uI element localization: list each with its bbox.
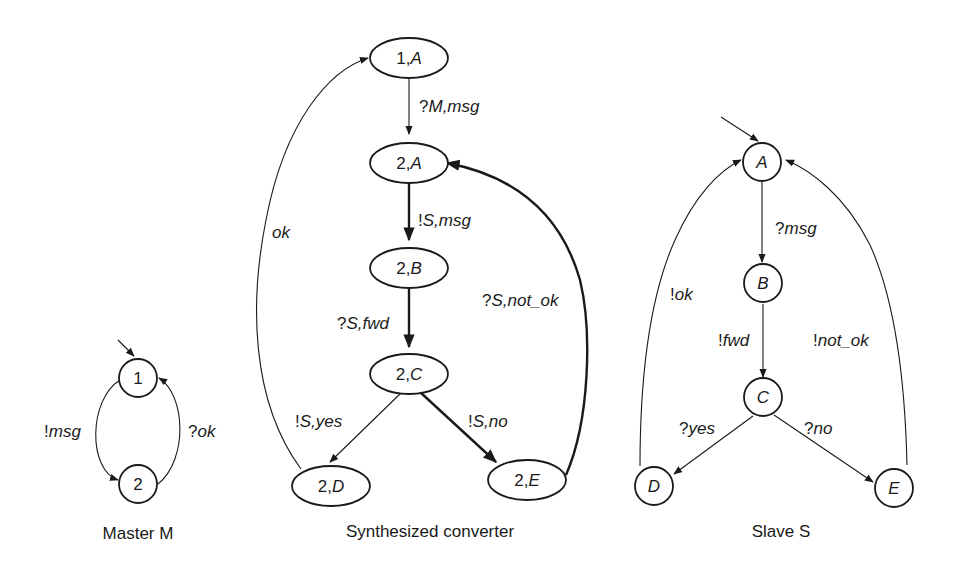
conv-label-S-no: !S,no	[468, 412, 508, 431]
conv-state-1A: 1,A	[370, 38, 448, 78]
slave-state-A: A	[743, 143, 781, 181]
master-state-1: 1	[119, 359, 157, 397]
slave-state-C: C	[744, 378, 782, 416]
conv-state-2E: 2,E	[488, 460, 566, 500]
slave-state-D: D	[635, 467, 673, 505]
slave-label-not-ok: !not_ok	[813, 331, 870, 350]
master-diagram: 1 2 !msg ?ok Master M	[44, 340, 217, 543]
conv-state-2D: 2,D	[292, 466, 370, 506]
slave-label-yes: ?yes	[679, 419, 715, 438]
svg-text:2,D: 2,D	[318, 477, 344, 496]
slave-initial-arrow	[721, 117, 758, 141]
svg-text:E: E	[888, 479, 900, 498]
svg-text:B: B	[757, 274, 768, 293]
svg-text:2,B: 2,B	[396, 259, 422, 278]
conv-label-S-not-ok: ?S,not_ok	[482, 291, 560, 310]
master-edge-2-1	[158, 378, 180, 484]
master-edge-1-2	[96, 380, 120, 480]
svg-text:2,C: 2,C	[396, 365, 423, 384]
master-label-msg: !msg	[44, 422, 81, 441]
conv-label-S-msg: !S,msg	[418, 211, 471, 230]
slave-diagram: A B C D E ?msg !fwd ?yes ?no !ok !not_ok…	[635, 117, 913, 541]
slave-label-fwd: !fwd	[718, 331, 750, 350]
conv-label-S-fwd: ?S,fwd	[337, 314, 390, 333]
svg-text:C: C	[757, 388, 770, 407]
svg-text:A: A	[755, 153, 767, 172]
conv-state-2A: 2,A	[370, 143, 448, 183]
svg-text:2,E: 2,E	[514, 471, 540, 490]
slave-label-ok: !ok	[670, 285, 694, 304]
master-initial-arrow	[118, 340, 134, 356]
svg-text:2,A: 2,A	[396, 154, 422, 173]
conv-label-ok: ok	[272, 223, 291, 242]
svg-text:1,A: 1,A	[396, 49, 422, 68]
converter-caption: Synthesized converter	[346, 522, 515, 541]
svg-text:1: 1	[133, 369, 142, 388]
slave-label-msg: ?msg	[775, 219, 817, 238]
converter-diagram: 1,A 2,A 2,B 2,C 2,D 2,E ?M,msg !S,msg ?S…	[257, 38, 588, 541]
conv-label-S-yes: !S,yes	[295, 412, 343, 431]
conv-state-2C: 2,C	[370, 354, 448, 394]
slave-caption: Slave S	[752, 522, 811, 541]
master-caption: Master M	[103, 524, 174, 543]
conv-state-2B: 2,B	[370, 248, 448, 288]
slave-label-no: ?no	[804, 419, 832, 438]
master-state-2: 2	[119, 465, 157, 503]
slave-state-E: E	[875, 469, 913, 507]
master-label-ok: ?ok	[188, 422, 217, 441]
conv-label-M-msg: ?M,msg	[419, 97, 480, 116]
svg-text:2: 2	[133, 475, 142, 494]
slave-state-B: B	[744, 264, 782, 302]
svg-text:D: D	[648, 477, 660, 496]
conv-edge-2D-1A	[257, 58, 368, 469]
protocol-converter-diagram: 1 2 !msg ?ok Master M 1,A 2,A 2,B	[0, 0, 954, 571]
